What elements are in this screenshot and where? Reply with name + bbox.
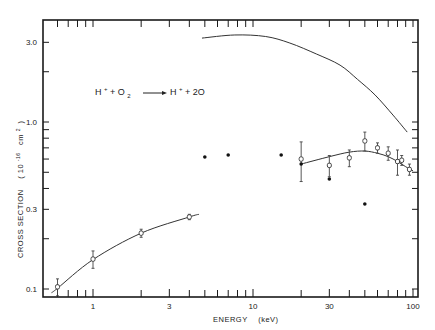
svg-text:CROSS SECTION ( 10: CROSS SECTION ( 10 -16 cm 2 )	[13, 120, 25, 258]
filled-data-point	[203, 155, 207, 159]
open-data-point	[386, 151, 390, 155]
open-data-point	[56, 285, 60, 289]
tick-labels: 1310301000.10.31.03.0	[26, 38, 420, 311]
x-tick-label: 10	[249, 302, 258, 311]
svg-text:H + + O 2: H + + O 2	[95, 83, 131, 99]
x-tick-label: 100	[406, 302, 420, 311]
x-tick-label: 1	[91, 302, 96, 311]
open-data-point	[327, 163, 331, 167]
chart-canvas: 1310301000.10.31.03.0 ENERGY (keV) CROSS…	[0, 0, 435, 330]
y-tick-label: 3.0	[26, 38, 38, 47]
open-data-point	[376, 146, 380, 150]
x-tick-label: 3	[167, 302, 172, 311]
filled-data-point	[299, 162, 303, 166]
open-data-point	[299, 157, 303, 161]
filled-data-point	[279, 153, 283, 157]
open-data-point	[407, 167, 411, 171]
fit-curve	[202, 35, 407, 132]
open-data-point	[187, 215, 191, 219]
x-axis-title: ENERGY (keV)	[213, 315, 279, 324]
open-data-point	[91, 257, 95, 261]
y-axis-title: CROSS SECTION ( 10 -16 cm 2 )	[13, 120, 25, 258]
filled-data-point	[363, 202, 367, 206]
y-tick-label: 0.3	[26, 205, 38, 214]
open-data-point	[347, 156, 351, 160]
data-points	[56, 132, 412, 296]
filled-data-point	[226, 153, 230, 157]
curves	[51, 35, 413, 293]
open-data-point	[363, 139, 367, 143]
open-data-point	[400, 158, 404, 162]
fit-curve	[51, 214, 199, 292]
x-tick-label: 30	[325, 302, 334, 311]
svg-text:H + + 2O: H + + 2O	[170, 83, 205, 97]
arrow-head-icon	[162, 91, 167, 95]
reaction-annotation: H + + O 2 H + + 2O	[95, 83, 205, 99]
open-data-point	[395, 159, 399, 163]
filled-data-point	[328, 177, 332, 181]
y-tick-label: 1.0	[26, 118, 38, 127]
y-tick-label: 0.1	[26, 285, 38, 294]
open-data-point	[139, 231, 143, 235]
